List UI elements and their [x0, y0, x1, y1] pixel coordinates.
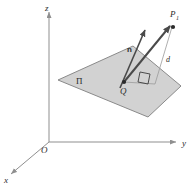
point-q-dot: [122, 80, 126, 84]
point-p1-dot: [171, 25, 175, 29]
geometry-diagram: z y x O Π d n: [0, 0, 194, 188]
point-p1-subscript: 1: [176, 15, 179, 21]
plane-label: Π: [76, 76, 83, 86]
distance-label: d: [166, 55, 171, 64]
normal-vector-label: n: [127, 45, 132, 54]
plane-group: Π: [58, 46, 181, 117]
point-p1-label: P: [169, 9, 176, 19]
x-axis-label: x: [3, 175, 8, 185]
figure-canvas: z y x O Π d n: [0, 0, 194, 188]
z-axis-label: z: [44, 3, 49, 13]
y-axis-label: y: [181, 138, 186, 148]
origin-label: O: [41, 145, 48, 155]
point-q-label: Q: [120, 86, 127, 96]
